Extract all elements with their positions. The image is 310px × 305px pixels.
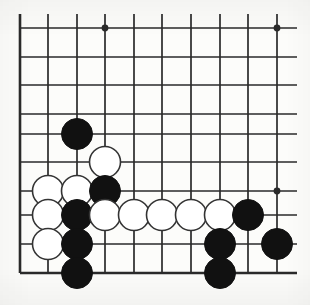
- white-stone-c1-r8[interactable]: [33, 229, 64, 260]
- white-stone-c6-r7[interactable]: [176, 200, 207, 231]
- white-stone-c4-r7[interactable]: [119, 200, 150, 231]
- black-stone-c7-r8[interactable]: [205, 229, 236, 260]
- black-stone-c2-r9[interactable]: [62, 258, 93, 289]
- white-stone-c5-r7[interactable]: [147, 200, 178, 231]
- star-point-upper-icon: [102, 25, 109, 32]
- star-point-lower-right-icon: [274, 188, 281, 195]
- grid-lines: [20, 14, 297, 273]
- go-board-diagram: [0, 0, 310, 305]
- white-stone-c1-r7[interactable]: [33, 200, 64, 231]
- black-stone-c2-r8[interactable]: [62, 229, 93, 260]
- black-stone-c2-r7[interactable]: [62, 200, 93, 231]
- black-stone-c9-r8[interactable]: [262, 229, 293, 260]
- star-point-upper-right-icon: [274, 25, 281, 32]
- go-board-svg[interactable]: [0, 0, 310, 305]
- white-stone-c3-r5[interactable]: [90, 147, 121, 178]
- black-stone-c8-r7[interactable]: [233, 200, 264, 231]
- white-stone-c7-r7[interactable]: [205, 200, 236, 231]
- black-stone-c7-r9[interactable]: [205, 258, 236, 289]
- white-stone-c3-r7[interactable]: [90, 200, 121, 231]
- black-stone-c2-r4[interactable]: [62, 119, 93, 150]
